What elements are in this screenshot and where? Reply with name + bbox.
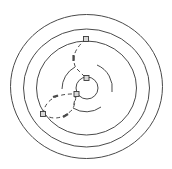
- path-top-to-left-arc: [74, 39, 86, 69]
- left-arc: [62, 67, 75, 89]
- right-arc: [97, 65, 112, 92]
- node-left: [41, 112, 46, 117]
- concentric-ring-diagram: [0, 0, 172, 169]
- emphasis-dash-upper: [53, 96, 58, 98]
- bottom-arc: [73, 107, 101, 112]
- second-ring: [24, 29, 150, 147]
- third-ring: [37, 41, 137, 135]
- loop-lower: [43, 94, 76, 118]
- node-inner-left: [74, 92, 79, 97]
- emphasis-dash-lower: [63, 114, 68, 117]
- node-inner-top: [84, 76, 89, 81]
- node-top: [84, 37, 89, 42]
